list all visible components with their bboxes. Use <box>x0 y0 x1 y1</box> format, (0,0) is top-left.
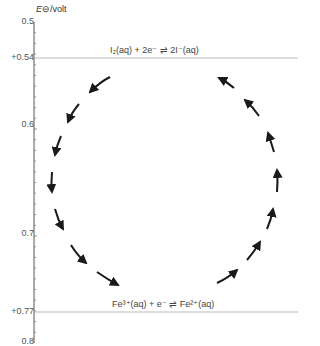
arrow-14 <box>219 78 234 88</box>
arrow-4 <box>52 172 53 192</box>
arrow-10 <box>267 209 273 229</box>
arrow-2 <box>68 104 79 122</box>
arrow-5 <box>55 209 63 229</box>
arrow-3 <box>55 136 61 155</box>
half-reaction-iodine: I₂(aq) + 2e⁻ ⇌ 2I⁻(aq) <box>110 45 199 55</box>
arrow-6 <box>71 245 86 263</box>
arrow-7 <box>97 272 118 285</box>
arrow-12 <box>268 133 274 152</box>
arrow-9 <box>247 242 260 260</box>
arrow-11 <box>277 170 278 192</box>
arrow-13 <box>245 100 259 116</box>
half-reaction-iron: Fe³⁺(aq) + e⁻ ⇌ Fe²⁺(aq) <box>112 299 214 309</box>
arrow-8 <box>217 270 237 283</box>
cycle-arrows <box>52 77 278 285</box>
arrow-1 <box>90 77 110 92</box>
